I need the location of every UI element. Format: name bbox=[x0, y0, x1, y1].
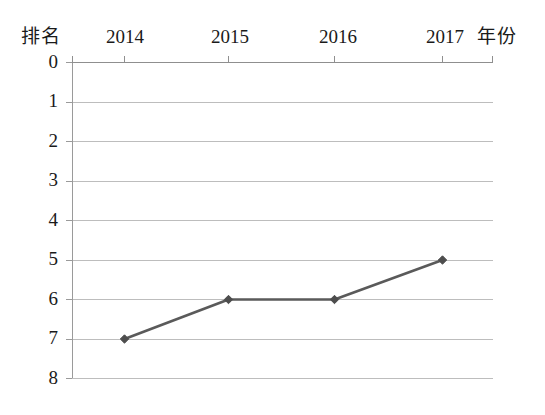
rank-line-chart: 排名 2014 2015 2016 2017 年份 0 1 2 3 4 5 6 … bbox=[0, 0, 545, 415]
plot-area bbox=[0, 0, 545, 415]
data-point-2014 bbox=[120, 335, 128, 343]
data-point-2016 bbox=[330, 295, 338, 303]
x-axis-ticks bbox=[73, 56, 493, 62]
y-axis-ticks bbox=[66, 63, 72, 379]
gridlines bbox=[72, 63, 493, 379]
data-point-2015 bbox=[224, 295, 232, 303]
data-point-2017 bbox=[438, 256, 446, 264]
